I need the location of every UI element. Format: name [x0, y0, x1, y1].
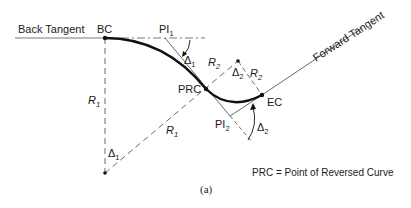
- delta2-arrowhead: [250, 103, 256, 110]
- forward-tangent-label: Forward Tangent: [311, 9, 387, 64]
- r1-label-vertical: R1: [88, 94, 100, 109]
- center-2-point: [236, 59, 240, 63]
- back-tangent-label: Back Tangent: [18, 23, 84, 35]
- pi1-label: PI1: [159, 23, 174, 38]
- ec-point: [260, 93, 264, 97]
- common-tangent-line: [165, 38, 230, 116]
- bc-point: [103, 36, 107, 40]
- delta2-arc: [248, 107, 255, 140]
- pi2-label: PI2: [215, 118, 230, 133]
- delta2-label-center: Δ2: [232, 66, 244, 81]
- delta1-label-bottom: Δ1: [108, 147, 120, 162]
- radius-r1-line: [105, 61, 238, 173]
- center-1-point: [103, 171, 107, 175]
- r2-label-left: R2: [208, 56, 221, 71]
- ec-label: EC: [267, 96, 282, 108]
- delta2-label-bottom: Δ2: [257, 121, 269, 136]
- r1-label-diagonal: R1: [166, 124, 178, 139]
- prc-point: [204, 87, 208, 91]
- figure-caption: (a): [200, 183, 213, 196]
- r2-label-right: R2: [250, 67, 263, 82]
- prc-label: PRC: [178, 83, 201, 95]
- reversed-curve-diagram: Back Tangent BC PI1 Δ1 Forward Tangent R…: [0, 0, 411, 208]
- legend-text: PRC = Point of Reversed Curve: [252, 167, 394, 178]
- bc-label: BC: [97, 23, 112, 35]
